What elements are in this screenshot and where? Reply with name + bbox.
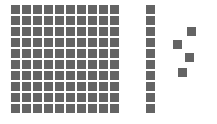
one-unit-square <box>173 40 182 49</box>
one-unit-square <box>187 27 196 36</box>
ones-unit-blocks <box>0 0 217 124</box>
one-unit-square <box>185 53 194 62</box>
one-unit-square <box>178 68 187 77</box>
